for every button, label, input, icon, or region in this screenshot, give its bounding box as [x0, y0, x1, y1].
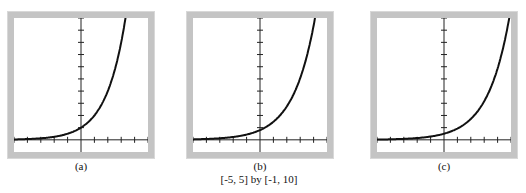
graph-frame	[187, 12, 333, 158]
graph-panel-b	[187, 12, 333, 158]
caption-a: (a)	[8, 160, 154, 172]
plot-area	[14, 18, 148, 152]
graph-frame	[8, 12, 154, 158]
caption-c: (c)	[371, 160, 517, 172]
exponential-curve	[193, 18, 316, 139]
graph-frame	[371, 12, 517, 158]
graph-panel-a	[8, 12, 154, 158]
plot-area	[193, 18, 327, 152]
graph-panel-c	[371, 12, 517, 158]
window-label: [-5, 5] by [-1, 10]	[185, 173, 333, 185]
plot-area	[377, 18, 511, 152]
caption-b: (b)	[187, 160, 333, 172]
exponential-curve	[14, 18, 126, 139]
